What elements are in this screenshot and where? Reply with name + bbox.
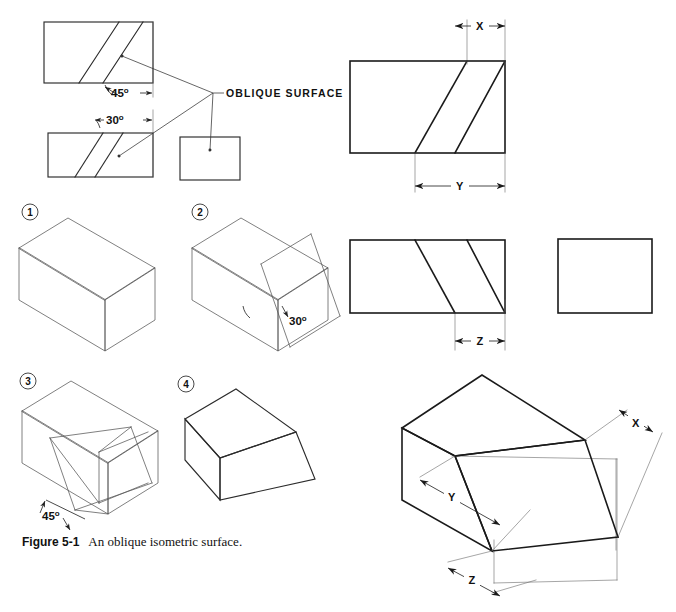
dimensioned-front-view: Z	[350, 240, 505, 350]
box2-angle-value: 30o	[289, 314, 307, 327]
step-1-number: 1	[27, 207, 33, 218]
step-3-number: 3	[25, 376, 31, 387]
iso-z-extension-b	[492, 580, 536, 593]
box2-top-face	[192, 218, 328, 300]
dim-top-oblique-edge-left	[415, 61, 467, 153]
dimensioned-side-view-rectangle	[558, 239, 652, 313]
top-view-oblique-edge-left	[79, 22, 119, 83]
front-view-angle-arc	[96, 120, 100, 128]
technical-drawing-canvas: 45o 30o OBLIQUE SURFACE	[0, 0, 676, 612]
box-with-30-degree-cut: 30o	[192, 218, 340, 351]
step-1-group: 1	[19, 204, 155, 351]
iso-construction-line-c	[494, 580, 617, 583]
leader-to-front-view	[119, 93, 213, 156]
front-view-angle-value: 30o	[106, 113, 124, 126]
box3-inner-line-f	[75, 510, 108, 514]
top-view-angle-value: 45o	[111, 86, 129, 99]
leader-to-side-view	[210, 93, 213, 150]
box2-cut-line-back	[311, 234, 340, 316]
iso-x-dimension-label: X	[632, 417, 640, 429]
iso-y-extension-b	[492, 510, 530, 551]
leader-to-top-view	[122, 56, 213, 93]
box2-angle-arrow	[282, 306, 288, 317]
box3-left-face	[22, 411, 108, 514]
box3-inner-line-e	[99, 483, 148, 503]
side-rectangle-outline	[558, 239, 652, 313]
step-3-group: 3	[20, 373, 158, 530]
y-dimension-label: Y	[456, 180, 464, 192]
iso-x-extension-b	[618, 433, 662, 537]
z-dimension-label: Z	[476, 335, 483, 347]
box3-inner-line-a	[50, 438, 99, 503]
box3-top-face	[22, 381, 158, 463]
box3-plane-edge-d	[50, 438, 75, 510]
box4-top-face	[185, 389, 296, 458]
box2-cut-line-top	[261, 234, 311, 264]
step-4-group: 4	[178, 376, 315, 500]
box1-right-face	[105, 268, 155, 351]
front-view-outline	[48, 133, 153, 177]
dimensioned-top-view-outline	[350, 61, 505, 153]
finished-oblique-solid	[185, 389, 315, 500]
step-2-group: 2 30o	[192, 204, 340, 351]
oblique-surface-label: OBLIQUE SURFACE	[226, 87, 343, 99]
dimensioned-top-view: X Y	[350, 18, 505, 194]
x-dimension-label: X	[476, 20, 484, 32]
iso-z-dimension-label: Z	[468, 574, 475, 586]
figure-caption-text: An oblique isometric surface.	[88, 534, 242, 549]
iso-x-extension-a	[585, 410, 627, 440]
dim-top-oblique-edge-right	[455, 61, 505, 153]
top-view-45-degree: 45o	[44, 22, 153, 99]
plain-isometric-box	[19, 218, 155, 351]
dim-front-oblique-edge-left	[415, 240, 455, 313]
figure-page: 45o 30o OBLIQUE SURFACE	[0, 0, 676, 612]
iso-z-extension-a	[448, 551, 492, 562]
top-view-oblique-edge-right	[103, 22, 143, 83]
box4-front-oblique-face	[220, 432, 315, 500]
iso-y-extension-a	[420, 456, 455, 477]
step-4-number: 4	[183, 379, 189, 390]
box3-plane-edge-b	[131, 427, 152, 483]
box4-left-face	[185, 419, 220, 500]
figure-caption-label: Figure 5-1	[22, 535, 79, 549]
large-isometric-solid: X Y Z	[402, 375, 662, 596]
dimensioned-front-view-outline	[350, 240, 505, 313]
figure-caption: Figure 5-1An oblique isometric surface.	[22, 534, 442, 550]
iso-construction-line-a	[452, 456, 617, 459]
iso-y-dimension-label: Y	[448, 491, 456, 503]
box1-left-face	[19, 248, 105, 351]
box3-right-face	[108, 431, 158, 514]
box-with-45-degree-construction: 45o	[22, 381, 158, 530]
box2-left-face	[192, 248, 278, 351]
box2-cut-line-front	[261, 264, 290, 347]
box3-angle-arrow-lower	[63, 518, 70, 530]
dim-front-oblique-edge-right	[467, 240, 505, 313]
box2-angle-arc	[243, 306, 250, 318]
box1-top-face	[19, 218, 155, 300]
box3-angle-value: 45o	[42, 509, 60, 522]
step-2-number: 2	[197, 207, 203, 218]
